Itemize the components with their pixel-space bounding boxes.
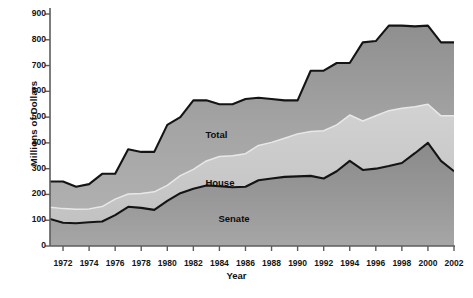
x-axis-tick-labels: 1972197419761978198019821984198619881990… — [0, 250, 473, 266]
y-tick-label-600: 600 — [12, 85, 46, 95]
y-tick-label-0: 0 — [12, 240, 46, 250]
y-tick-label-100: 100 — [12, 214, 46, 224]
x-tick-label-2002: 2002 — [434, 258, 473, 268]
y-tick-label-800: 800 — [12, 34, 46, 44]
x-axis-title: Year — [0, 270, 473, 281]
series-label-senate: Senate — [218, 213, 249, 224]
y-tick-label-700: 700 — [12, 60, 46, 70]
y-tick-label-900: 900 — [12, 8, 46, 18]
series-label-house: House — [205, 177, 234, 188]
y-tick-label-300: 300 — [12, 163, 46, 173]
stacked-area-chart: Millions of Dollars 90080070060050040030… — [0, 0, 473, 298]
y-tick-label-200: 200 — [12, 188, 46, 198]
series-label-total: Total — [205, 129, 227, 140]
y-tick-label-400: 400 — [12, 137, 46, 147]
y-axis-tick-labels: 9008007006005004003002001000 — [6, 0, 46, 260]
y-tick-label-500: 500 — [12, 111, 46, 121]
